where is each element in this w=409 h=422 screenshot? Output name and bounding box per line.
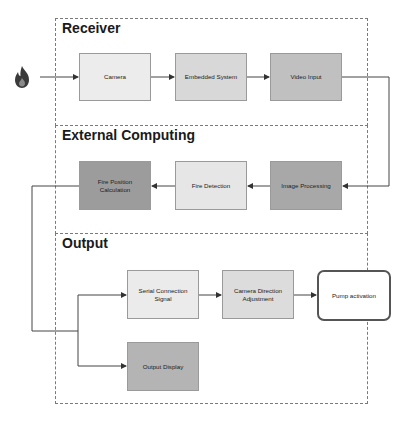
pump-activation-node: Pump activation	[317, 270, 391, 321]
image-processing-node: Image Processing	[270, 161, 342, 210]
embedded-system-node: Embedded System	[175, 53, 247, 101]
camera-direction-adjustment-node: Camera Direction Adjustment	[222, 270, 294, 319]
fire-position-calculation-node: Fire Position Calculation	[79, 161, 151, 210]
serial-connection-signal-node: Serial Connection Signal	[127, 270, 199, 319]
video-input-node: Video Input	[270, 53, 342, 101]
output-display-node: Output Display	[127, 342, 199, 391]
fire-icon	[12, 65, 32, 89]
camera-node: Camera	[79, 53, 151, 101]
fire-detection-node: Fire Detection	[175, 161, 247, 210]
